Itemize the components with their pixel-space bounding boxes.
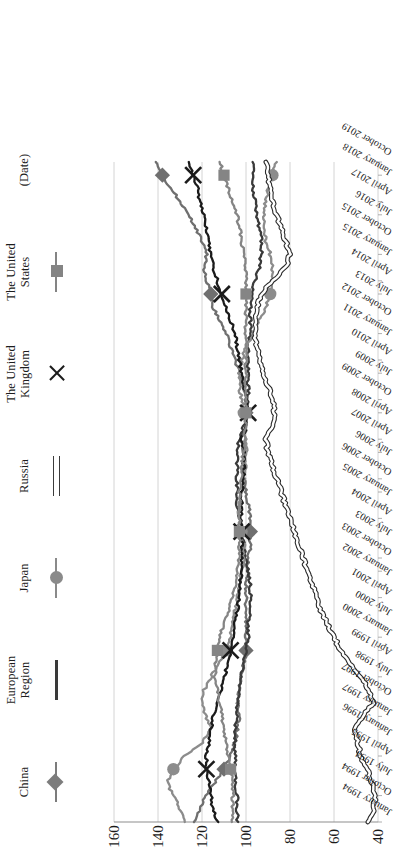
- legend-label-united-states: The United States: [5, 243, 32, 301]
- hollow-line-icon: [41, 456, 71, 496]
- square-marker-icon: [41, 252, 71, 292]
- legend-label-japan: Japan: [18, 564, 32, 593]
- legend-label-united-kingdom: The United Kingdom: [5, 345, 32, 403]
- legend-item-china: China: [18, 722, 73, 842]
- legend-item-united-states: The United States: [5, 212, 73, 332]
- legend-item-russia: Russia: [18, 416, 73, 536]
- legend-item-european-region: European Region: [5, 620, 73, 740]
- legend-key-japan: [39, 558, 73, 598]
- legend-key-china: [39, 762, 73, 802]
- legend-key-united-states: [39, 252, 73, 292]
- value-tick-160: 160: [106, 817, 123, 850]
- legend-label-date: (Date): [18, 154, 32, 187]
- value-tick-80: 80: [282, 817, 299, 850]
- legend-label-european-region: European Region: [5, 656, 32, 705]
- legend-key-united-kingdom: [39, 354, 73, 394]
- chart-legend: China European Region Japan: [0, 0, 108, 850]
- solid-line-icon: [41, 660, 71, 700]
- value-tick-60: 60: [326, 817, 343, 850]
- diamond-marker-icon: [41, 762, 71, 802]
- x-marker-icon: [41, 354, 71, 394]
- circle-marker-icon: [41, 558, 71, 598]
- legend-key-european-region: [39, 660, 73, 700]
- legend-label-china: China: [18, 767, 32, 797]
- value-tick-40: 40: [370, 817, 387, 850]
- legend-item-united-kingdom: The United Kingdom: [5, 314, 73, 434]
- legend-key-russia: [39, 456, 73, 496]
- legend-label-russia: Russia: [18, 459, 32, 493]
- value-tick-120: 120: [194, 817, 211, 850]
- value-tick-100: 100: [238, 817, 255, 850]
- legend-item-date-axis-title: (Date): [18, 110, 32, 230]
- legend-item-japan: Japan: [18, 518, 73, 638]
- value-tick-140: 140: [150, 817, 167, 850]
